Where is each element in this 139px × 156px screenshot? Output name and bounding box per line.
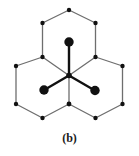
figure-caption: (b) [0, 131, 139, 145]
vertex-top-upper-left [40, 21, 44, 25]
vertex-far-right-lower [120, 102, 124, 106]
figure-container: (b) [0, 0, 139, 156]
large-dot-down-right [90, 86, 99, 95]
edge-top-left-upper [43, 10, 70, 23]
vertex-top-upper-right [93, 21, 97, 25]
vertex-mid-left [40, 55, 44, 59]
large-dot-up [64, 37, 73, 46]
edge-bl-upper-left [16, 57, 43, 66]
edge-br-lower-right [96, 104, 123, 118]
vertex-top-apex [67, 8, 71, 12]
vertex-bottom-center [67, 102, 72, 107]
edge-br-lower-left [69, 104, 96, 118]
vertex-far-left-upper [14, 64, 18, 68]
vertex-far-right-upper [120, 64, 124, 68]
large-dot-down-left [39, 85, 48, 94]
vector-down-left [45, 76, 69, 90]
edge-bl-lower-right [43, 104, 70, 118]
vertex-center [66, 73, 72, 79]
edge-bl-lower-left [16, 104, 43, 118]
vertex-far-left-lower [14, 102, 18, 106]
vertex-bottom-right [93, 116, 97, 120]
vector-down-right [69, 76, 94, 91]
edge-top-right-lower [69, 57, 96, 76]
vertex-bottom-left [40, 116, 44, 120]
edge-top-left-lower [43, 57, 70, 76]
vertex-mid-right [93, 55, 97, 59]
edge-br-upper-right [96, 57, 123, 66]
edge-top-right-upper [69, 10, 96, 23]
